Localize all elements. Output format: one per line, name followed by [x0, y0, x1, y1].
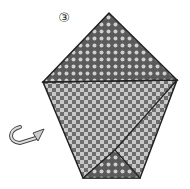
origami-diagram [0, 0, 190, 189]
top-triangle-flap [43, 13, 177, 82]
turn-over-arrow-icon [11, 127, 44, 143]
